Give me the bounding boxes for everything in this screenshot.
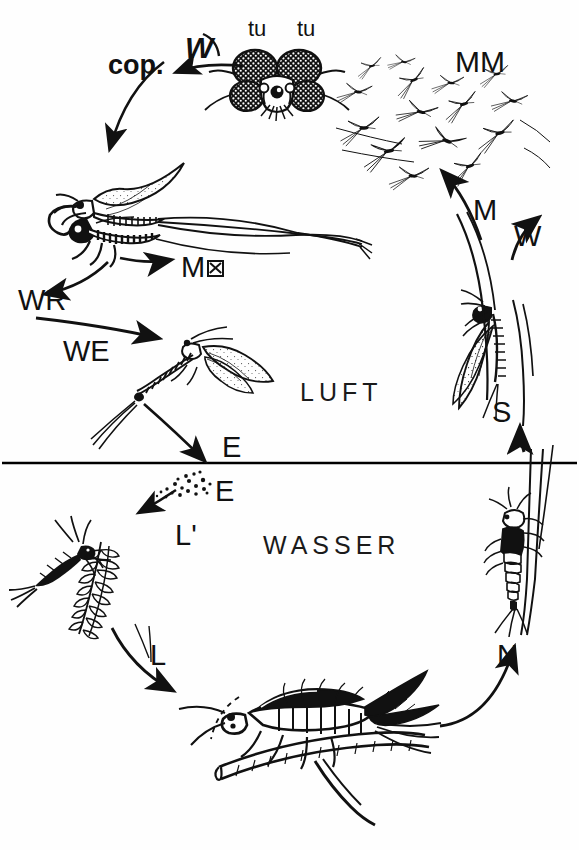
copula-label: cop. [108,52,164,79]
female-eggs-label: WE [63,337,110,366]
male-swarm-label: MM [455,47,505,77]
egg-laying-female-art [91,327,273,449]
eggs-air-label: E [222,433,241,462]
arrow-eggs-to-water [144,404,204,460]
arrow-eggs-to-young-larva [140,490,176,512]
larva-label: L [150,641,166,670]
female-return-label: WR [18,286,66,315]
death-cross-icon [207,260,224,277]
young-larva-art [9,516,151,662]
female-arrival-label: W [185,33,213,63]
nymph-label: N [497,641,518,670]
mating-pair-art [49,163,372,267]
emergence-label: S [492,398,511,427]
egg-cluster-art [156,470,212,498]
male-death-label: M [181,253,224,282]
young-larva-label: L' [175,521,197,550]
mature-larva-art [179,671,441,825]
arrow-male-death [120,258,170,262]
turban-eye-label-right: tu [297,18,315,40]
male-swarm-art [336,53,550,192]
male-death-letter: M [181,251,205,283]
emerging-nymph-art [484,445,553,637]
arrow-emergence [520,428,524,452]
female-ascend-label: W [514,222,541,251]
zone-label-water: WASSER [263,531,400,560]
eggs-water-label: E [215,477,234,506]
male-head-turban-eyes-art [205,50,349,121]
life-cycle-diagram: LUFT WASSER cop. W tu tu MM M W M WR WE … [0,0,579,850]
turban-eye-label-left: tu [248,18,266,40]
zone-label-air: LUFT [300,378,383,407]
male-ascend-label: M [473,196,497,225]
